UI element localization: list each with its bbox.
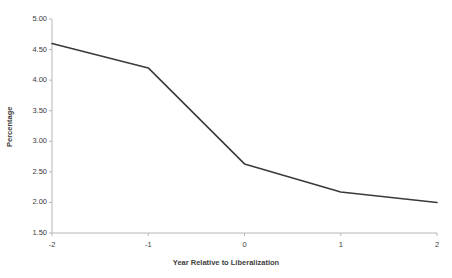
y-tick-label: 2.50 [10, 168, 47, 176]
x-tick-label: -1 [145, 241, 152, 249]
y-tick-label: 2.00 [10, 199, 47, 207]
plot-area [0, 0, 452, 278]
line-chart: 5.004.504.003.503.002.502.001.50 -2-1012… [0, 0, 452, 278]
y-tick-label: 1.50 [10, 229, 47, 237]
y-tick-label: 4.50 [10, 46, 47, 54]
x-axis-title: Year Relative to Liberalization [0, 259, 452, 267]
y-axis-title: Percentage [6, 95, 14, 159]
data-series-line [52, 43, 437, 202]
x-tick-label: 1 [339, 241, 343, 249]
y-tick-label: 5.00 [10, 15, 47, 23]
x-tick-label: 0 [242, 241, 246, 249]
y-tick-label: 4.00 [10, 76, 47, 84]
x-tick-label: 2 [435, 241, 439, 249]
x-tick-label: -2 [49, 241, 56, 249]
y-tick-label: 3.50 [10, 107, 47, 115]
y-tick-label: 3.00 [10, 138, 47, 146]
